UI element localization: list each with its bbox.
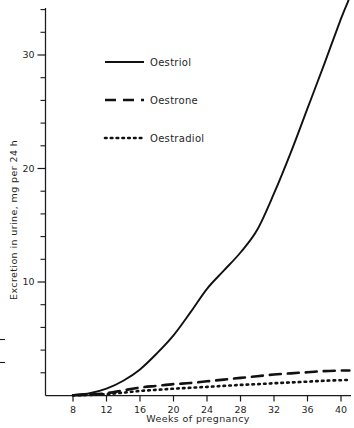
y-axis-title: Excretion in urine, mg per 24 h: [8, 140, 19, 300]
x-tick-label: 32: [268, 404, 280, 415]
x-tick-label: 16: [134, 404, 146, 415]
legend-label: Oestriol: [150, 57, 191, 68]
line-chart-canvas: 102030 81216202428323640 Excretion in ur…: [0, 0, 354, 428]
chart-figure: 102030 81216202428323640 Excretion in ur…: [0, 0, 354, 428]
x-tick-label: 8: [70, 404, 76, 415]
legend-label: Oestradiol: [150, 133, 204, 144]
x-tick-label: 40: [335, 404, 347, 415]
x-tick-label: 36: [301, 404, 313, 415]
legend-label: Oestrone: [150, 95, 198, 106]
y-tick-label: 30: [22, 49, 34, 60]
y-tick-label: 10: [22, 276, 34, 287]
x-tick-label: 12: [100, 404, 112, 415]
y-tick-label: 20: [22, 163, 34, 174]
x-axis-title: Weeks of pregnancy: [146, 413, 250, 424]
